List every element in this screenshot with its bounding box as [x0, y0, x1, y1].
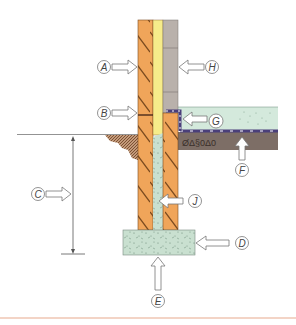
- label-d: D: [238, 238, 245, 249]
- outer-brick-leaf: [138, 20, 153, 230]
- arrow-c: C: [32, 187, 72, 201]
- label-f: F: [239, 165, 246, 176]
- label-e: E: [155, 296, 162, 307]
- concrete-foundation: [123, 230, 195, 255]
- label-b: B: [101, 108, 108, 119]
- arrow-d: D: [196, 236, 249, 250]
- arrow-f: F: [235, 137, 249, 177]
- inner-block-leaf: [163, 20, 178, 113]
- cavity-concrete-fill: [153, 133, 163, 230]
- hardcore-pattern: ØΔ§0Δ0: [182, 138, 216, 148]
- soil-backfill: [105, 135, 138, 160]
- label-g: G: [212, 116, 220, 127]
- label-h: H: [208, 62, 216, 73]
- arrow-b: B: [98, 106, 138, 120]
- inner-brick-leaf: [163, 113, 178, 230]
- arrow-a: A: [98, 60, 138, 74]
- label-j: J: [192, 196, 199, 207]
- label-c: C: [34, 189, 42, 200]
- cavity-insulation: [153, 20, 163, 135]
- arrow-j: J: [159, 194, 202, 208]
- arrow-h: H: [179, 60, 219, 74]
- label-a: A: [100, 62, 108, 73]
- arrow-e: E: [151, 257, 165, 308]
- wall-section-diagram: ØΔ§0Δ0 A B H G: [0, 0, 296, 325]
